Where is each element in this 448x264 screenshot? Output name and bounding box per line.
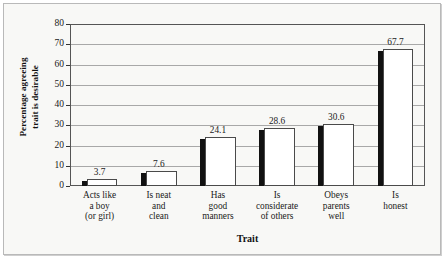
bar[interactable] bbox=[87, 179, 118, 186]
category-label: Isconsiderateof others bbox=[244, 190, 311, 222]
category-label: Hasgoodmanners bbox=[184, 190, 251, 222]
category-label-line: Has bbox=[184, 190, 251, 201]
y-tick-label: 50 bbox=[44, 79, 64, 89]
category-label-line: a boy bbox=[66, 201, 133, 212]
category-label: Obeysparentswell bbox=[303, 190, 370, 222]
category-label-line: Is bbox=[362, 190, 429, 201]
bar-value-label: 24.1 bbox=[198, 125, 238, 135]
y-tick-label: 40 bbox=[44, 99, 64, 109]
bar-value-label: 30.6 bbox=[316, 112, 356, 122]
bar[interactable] bbox=[264, 128, 295, 186]
y-tick-label: 70 bbox=[44, 38, 64, 48]
category-label-line: Obeys bbox=[303, 190, 370, 201]
category-label-line: manners bbox=[184, 211, 251, 222]
bar-value-label: 28.6 bbox=[257, 116, 297, 126]
category-label-line: and bbox=[125, 201, 192, 212]
bar[interactable] bbox=[146, 171, 177, 186]
bar-value-label: 3.7 bbox=[80, 167, 120, 177]
category-label: Acts likea boy(or girl) bbox=[66, 190, 133, 222]
y-tick-label: 30 bbox=[44, 119, 64, 129]
category-label-line: well bbox=[303, 211, 370, 222]
category-label-line: Is neat bbox=[125, 190, 192, 201]
y-tick-mark bbox=[66, 186, 70, 187]
x-axis-title: Trait bbox=[70, 233, 425, 244]
category-label-line: parents bbox=[303, 201, 370, 212]
category-label-line: considerate bbox=[244, 201, 311, 212]
category-label-line: of others bbox=[244, 211, 311, 222]
y-tick-label: 10 bbox=[44, 160, 64, 170]
category-label-line: Acts like bbox=[66, 190, 133, 201]
bar[interactable] bbox=[383, 49, 414, 186]
y-tick-label: 20 bbox=[44, 140, 64, 150]
category-label-line: clean bbox=[125, 211, 192, 222]
category-label: Is neatandclean bbox=[125, 190, 192, 222]
bar-value-label: 7.6 bbox=[139, 159, 179, 169]
category-label: Ishonest bbox=[362, 190, 429, 211]
bar[interactable] bbox=[205, 137, 236, 186]
bar-value-label: 67.7 bbox=[375, 37, 415, 47]
y-tick-label: 60 bbox=[44, 59, 64, 69]
bar[interactable] bbox=[323, 124, 354, 186]
plot-area bbox=[70, 24, 425, 186]
y-tick-label: 80 bbox=[44, 18, 64, 28]
bar-chart: Percentage agreeing trait is desirable 0… bbox=[4, 4, 442, 256]
y-tick-label: 0 bbox=[44, 180, 64, 190]
category-label-line: Is bbox=[244, 190, 311, 201]
category-label-line: honest bbox=[362, 201, 429, 212]
chart-frame: Percentage agreeing trait is desirable 0… bbox=[3, 3, 441, 255]
category-label-line: (or girl) bbox=[66, 211, 133, 222]
y-axis-title-line1: Percentage agreeing bbox=[18, 2, 28, 192]
y-axis-title-line2: trait is desirable bbox=[30, 2, 40, 192]
category-label-line: good bbox=[184, 201, 251, 212]
